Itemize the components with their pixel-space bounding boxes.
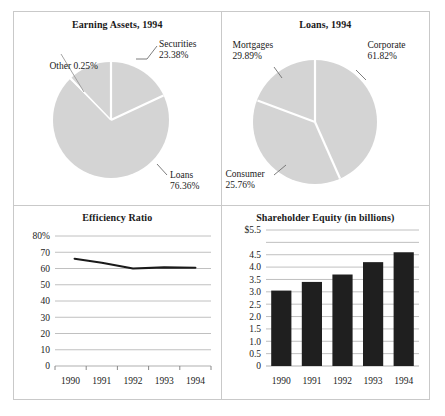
y-axis-tick-label: 3.0: [249, 287, 261, 297]
y-axis-tick-label: 0: [256, 361, 261, 371]
bar: [332, 274, 352, 365]
x-axis-tick-label: 1990: [271, 376, 290, 386]
y-axis-tick-label: 70: [41, 247, 51, 257]
leader-line-loans: [157, 164, 167, 175]
y-axis-tick-label: 60: [41, 263, 51, 273]
y-axis-tick-label: 80%: [33, 231, 51, 241]
y-axis-tick-label: 40: [41, 296, 51, 306]
y-axis-tick-label: 3.5: [249, 274, 261, 284]
x-axis-tick-label: 1993: [155, 376, 174, 386]
y-axis-tick-label: 50: [41, 280, 51, 290]
x-axis-tick-label: 1990: [61, 376, 80, 386]
y-axis-tick-label: 1.0: [249, 336, 261, 346]
y-axis-tick-label: 10: [41, 345, 51, 355]
y-axis-tick-label: 30: [41, 312, 51, 322]
panel-efficiency-ratio: Efficiency Ratio 80%70605040302010019901…: [14, 206, 222, 400]
panel-earning-assets: Earning Assets, 1994 Other 0.25% Securit…: [14, 12, 222, 206]
bar-chart-shareholder-equity: $5.54.54.03.53.02.52.01.51.00.5019901991…: [222, 206, 429, 400]
pie-label-other: Other 0.25%: [20, 61, 98, 72]
bar: [301, 281, 321, 365]
pie-label-consumer: Consumer 25.76%: [226, 169, 265, 191]
line-chart-efficiency-ratio: 80%70605040302010019901991199219931994: [14, 206, 222, 400]
leader-line-securities: [136, 46, 157, 59]
x-axis-tick-label: 1991: [302, 376, 321, 386]
y-axis-tick-label: 20: [41, 328, 51, 338]
y-axis-tick-label: 1.5: [249, 324, 261, 334]
y-axis-tick-label: $5.5: [244, 225, 261, 235]
y-axis-tick-label: 4.0: [249, 262, 261, 272]
x-axis-tick-label: 1992: [124, 376, 143, 386]
x-axis-tick-label: 1994: [394, 376, 413, 386]
pie-label-loans: Loans 76.36%: [170, 170, 199, 192]
y-axis-tick-label: 2.5: [249, 299, 261, 309]
x-axis-tick-label: 1994: [186, 376, 205, 386]
y-axis-tick-label: 2.0: [249, 311, 261, 321]
bar: [363, 262, 383, 366]
y-axis-tick-label: 0.5: [249, 349, 261, 359]
y-axis-tick-label: 0: [45, 361, 50, 371]
pie-label-mortgages: Mortgages 29.89%: [233, 40, 274, 62]
pie-label-corporate: Corporate 61.82%: [368, 40, 406, 62]
x-axis-tick-label: 1993: [363, 376, 382, 386]
charts-figure: Earning Assets, 1994 Other 0.25% Securit…: [13, 11, 430, 400]
bar: [271, 290, 291, 365]
bar: [393, 252, 413, 366]
x-axis-tick-label: 1992: [333, 376, 352, 386]
x-axis-tick-label: 1991: [92, 376, 111, 386]
line-series-efficiency-ratio: [75, 258, 196, 268]
panel-shareholder-equity: Shareholder Equity (in billions) $5.54.5…: [222, 206, 430, 400]
y-axis-tick-label: 4.5: [249, 250, 261, 260]
panel-loans: Loans, 1994 Mortgages 29.89% Corporate 6…: [222, 12, 430, 206]
pie-label-securities: Securities 23.38%: [159, 39, 196, 61]
